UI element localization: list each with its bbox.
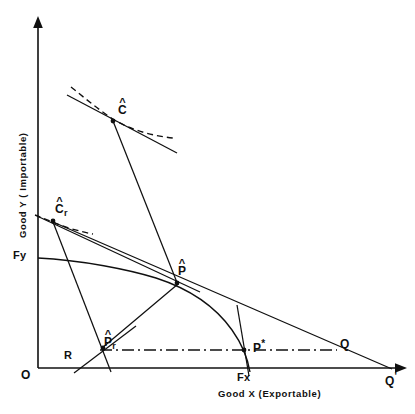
y-axis-arrowhead — [33, 16, 43, 28]
point-label-Cr: ^Cr — [55, 203, 68, 218]
circumflex-icon: ^ — [105, 329, 112, 340]
ray-C-to-P — [113, 121, 178, 285]
point-label-Qprime: Q' — [385, 372, 397, 387]
circumflex-icon: ^ — [119, 97, 126, 108]
point-label-C-text: ^C — [118, 104, 127, 116]
economics-diagram: Good Y ( Importable) Good X (Exportable)… — [0, 0, 415, 414]
point-label-Pstar: P* — [253, 339, 265, 354]
point-label-C: ^C — [118, 104, 127, 116]
circumflex-icon: ^ — [179, 258, 186, 269]
point-label-Cr-text: ^C — [55, 203, 64, 215]
point-marker-Pstar — [242, 348, 247, 353]
point-label-Pr-text: ^P — [104, 336, 112, 348]
price-line-at-Cr — [37, 216, 200, 292]
point-label-Pstar-text: P — [253, 341, 261, 355]
point-label-P-text: ^P — [178, 265, 186, 277]
circumflex-icon: ^ — [56, 196, 63, 207]
point-label-P: ^P — [178, 265, 186, 277]
fy-label: Fy — [13, 250, 26, 261]
point-marker-Cr — [51, 219, 56, 224]
point-label-Q-text: Q — [340, 337, 350, 351]
fx-label: Fx — [237, 372, 250, 383]
point-label-Cr-subscript: r — [64, 208, 68, 218]
point-label-Pr-subscript: r — [112, 341, 116, 351]
point-label-Qprime-text: Q — [385, 374, 395, 388]
point-marker-C — [111, 119, 116, 124]
point-label-Pstar-superscript: * — [261, 338, 265, 349]
point-marker-P — [175, 281, 180, 286]
y-axis-label: Good Y ( Importable) — [18, 132, 28, 238]
point-label-Qprime-superscript: ' — [395, 371, 398, 382]
point-label-Q: Q — [340, 338, 350, 350]
origin-label: O — [21, 369, 31, 381]
x-axis-label: Good X (Exportable) — [218, 389, 321, 399]
r-label: R — [64, 350, 72, 361]
point-label-Pr: ^Pr — [104, 336, 116, 351]
axes-group — [33, 16, 407, 373]
